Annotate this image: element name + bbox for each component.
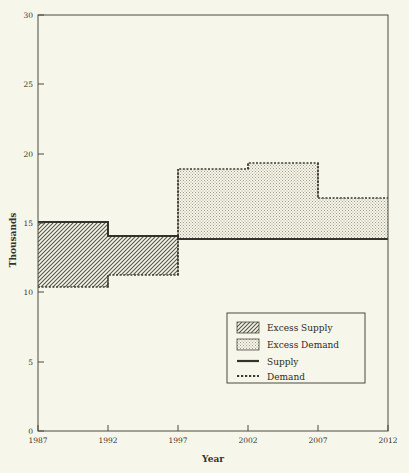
y-tick-label: 15	[23, 219, 33, 228]
y-tick-label: 0	[28, 427, 33, 436]
y-tick-label: 20	[23, 150, 33, 159]
legend-swatch-excess-demand	[237, 339, 259, 350]
x-axis-title: Year	[201, 454, 224, 464]
x-tick-label: 2012	[378, 436, 397, 445]
x-tick-label: 1987	[28, 436, 47, 445]
legend-label-demand: Demand	[267, 372, 305, 382]
legend-label-supply: Supply	[267, 357, 299, 367]
y-tick-label: 10	[23, 288, 33, 297]
legend-label-excess-demand: Excess Demand	[267, 340, 339, 350]
chart-container: 0 5 10 15 20 25 30 1987 1992 1997 2002 2…	[0, 0, 409, 473]
chart-svg: 0 5 10 15 20 25 30 1987 1992 1997 2002 2…	[0, 0, 409, 473]
legend-swatch-excess-supply	[237, 322, 259, 333]
y-tick-label: 25	[23, 80, 33, 89]
y-tick-label: 30	[23, 11, 33, 20]
x-tick-label: 2007	[308, 436, 327, 445]
x-tick-label: 1997	[168, 436, 187, 445]
x-tick-label: 2002	[238, 436, 257, 445]
legend: Excess Supply Excess Demand Supply Deman…	[227, 313, 365, 383]
legend-label-excess-supply: Excess Supply	[267, 323, 333, 333]
x-tick-label: 1992	[98, 436, 117, 445]
y-axis-title: Thousands	[8, 213, 18, 268]
y-tick-label: 5	[28, 358, 33, 367]
